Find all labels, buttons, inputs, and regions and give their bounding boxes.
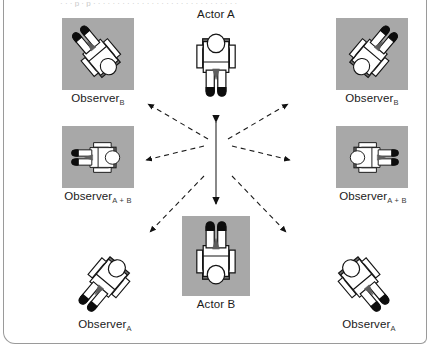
observer-bottom-right-label-text: Observer <box>342 318 390 330</box>
actor-b <box>182 216 250 296</box>
actor-b-figure <box>182 216 250 296</box>
actor-a-label-text: Actor A <box>197 8 235 20</box>
observer-top-left-label: ObserverB <box>62 92 134 104</box>
observer-bottom-left-label-subscript: A <box>126 324 131 333</box>
arrow-center-to-observer-top-right <box>228 104 288 139</box>
actor-b-label-text: Actor B <box>197 298 235 310</box>
arrow-center-to-observer-mid-left <box>146 146 204 160</box>
actor-a-figure <box>182 22 250 102</box>
actor-a-label: Actor A <box>182 8 250 20</box>
observer-mid-left <box>62 126 134 188</box>
figure-page: · · · p · p · · · · · · · · · · · · · · … <box>0 0 432 354</box>
observer-top-right-label-subscript: B <box>393 98 398 107</box>
observer-mid-right-label-text: Observer <box>339 190 387 202</box>
observer-top-left-label-subscript: B <box>119 98 124 107</box>
observer-top-left-label-text: Observer <box>71 92 119 104</box>
observer-mid-right-label: ObserverA + B <box>330 190 416 202</box>
observer-top-left <box>62 18 134 90</box>
observer-bottom-right-label-subscript: A <box>390 324 395 333</box>
observer-bottom-right-label: ObserverA <box>326 318 412 330</box>
observer-mid-right-label-subscript: A + B <box>387 196 407 205</box>
observer-bottom-left-label: ObserverA <box>62 318 148 330</box>
observer-mid-left-label-text: Observer <box>64 190 112 202</box>
observer-bottom-right <box>322 244 402 320</box>
observer-bottom-left <box>66 244 146 320</box>
human-figure-glyph <box>70 135 126 180</box>
observer-mid-left-label-subscript: A + B <box>112 196 132 205</box>
actor-b-label: Actor B <box>182 298 250 310</box>
observer-mid-right-figure <box>341 121 403 193</box>
human-figure-glyph <box>344 135 400 180</box>
observer-mid-left-figure <box>67 121 129 193</box>
cropped-caption-text: · · · p · p · · · · · · · · · · · · · · … <box>60 0 380 7</box>
human-figure-glyph <box>187 220 245 292</box>
actor-a <box>182 22 250 102</box>
observer-mid-right <box>336 126 408 188</box>
observer-top-right <box>336 18 408 90</box>
human-figure-glyph <box>319 238 405 326</box>
human-figure-glyph <box>63 238 149 326</box>
arrow-center-to-observer-mid-right <box>232 146 290 160</box>
human-figure-glyph <box>187 26 245 98</box>
observer-bottom-left-label-text: Observer <box>78 318 126 330</box>
arrow-center-to-observer-top-left <box>148 104 208 139</box>
observer-top-right-label: ObserverB <box>336 92 408 104</box>
observer-top-right-label-text: Observer <box>345 92 393 104</box>
observer-mid-left-label: ObserverA + B <box>55 190 141 202</box>
